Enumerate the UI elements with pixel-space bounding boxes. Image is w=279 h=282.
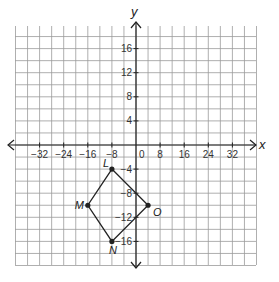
y-tick-label: 16 <box>121 43 133 54</box>
vertex-label-o: O <box>153 206 162 218</box>
x-tick-label: 32 <box>227 149 239 160</box>
vertex-label-l: L <box>103 157 109 169</box>
x-axis-label: x <box>258 137 266 152</box>
x-tick-label: −16 <box>79 149 96 160</box>
x-tick-label: −24 <box>55 149 72 160</box>
y-tick-label: −8 <box>121 188 133 199</box>
y-tick-label: −12 <box>115 212 132 223</box>
x-tick-label: 8 <box>157 149 163 160</box>
vertex-point-l <box>109 167 114 172</box>
y-tick-label: −4 <box>121 164 133 175</box>
axes: x y <box>8 4 266 268</box>
x-tick-label: 24 <box>203 149 215 160</box>
x-tick-label: 16 <box>179 149 191 160</box>
x-tick-label: 0 <box>139 149 145 160</box>
vertex-label-n: N <box>109 244 117 256</box>
y-tick-label: 8 <box>126 91 132 102</box>
y-tick-label: 4 <box>126 115 132 126</box>
vertex-label-m: M <box>75 199 85 211</box>
y-tick-label: −16 <box>115 236 132 247</box>
coordinate-plane: x y −32−24−16−808162432161284−4−8−12−16 … <box>0 0 279 282</box>
vertex-point-m <box>85 203 90 208</box>
x-tick-label: −32 <box>31 149 48 160</box>
y-axis-label: y <box>130 4 139 19</box>
vertex-point-n <box>109 239 114 244</box>
y-tick-label: 12 <box>121 67 133 78</box>
vertex-point-o <box>145 203 150 208</box>
